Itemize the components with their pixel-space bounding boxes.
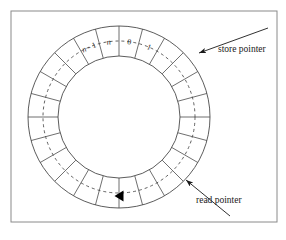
circular-buffer-diagram: store pointer read pointer n - 1n01 (0, 0, 286, 240)
ring-inner-circle (58, 56, 180, 178)
store-pointer-label: store pointer (218, 44, 267, 54)
read-pointer-label: read pointer (196, 195, 242, 205)
figure-container: store pointer read pointer n - 1n01 (0, 0, 286, 240)
ring-buffer (28, 26, 210, 208)
